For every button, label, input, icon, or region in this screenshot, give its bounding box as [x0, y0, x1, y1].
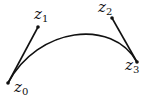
label-z3: z3: [124, 56, 139, 75]
bezier-diagram: z1 z2 z3 z0: [0, 0, 148, 99]
label-z2: z2: [97, 0, 112, 17]
point-z1: [36, 25, 40, 29]
label-z1: z1: [33, 5, 48, 24]
point-z0: [6, 81, 10, 85]
bezier-curve: [8, 34, 137, 83]
label-z0: z0: [13, 78, 28, 97]
tangent-z0-z1: [8, 27, 38, 83]
